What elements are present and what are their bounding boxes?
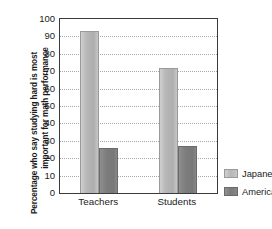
legend-swatch-icon	[224, 169, 238, 178]
y-axis-tick-label: 70	[44, 66, 55, 76]
y-axis-tick-label: 90	[44, 32, 55, 42]
legend-swatch-icon	[224, 187, 238, 196]
bar-japanese-students	[159, 68, 178, 193]
y-axis-title: Percentage who say studying hard is most…	[0, 0, 34, 229]
y-axis-tick-labels: 0102030405060708090100	[30, 0, 57, 229]
bar-japanese-teachers	[80, 31, 99, 193]
y-axis-tick-label: 20	[44, 153, 55, 163]
y-axis-tick-label: 10	[44, 171, 55, 181]
legend-item-japanese: Japanese	[224, 167, 272, 180]
legend-item-americans: Americans	[224, 185, 272, 198]
y-axis-tick-label: 30	[44, 136, 55, 146]
chart-legend: JapaneseAmericans	[224, 167, 272, 203]
plot-area	[59, 18, 218, 194]
x-axis-tick-labels: TeachersStudents	[59, 196, 218, 216]
y-axis-tick-label: 100	[39, 14, 55, 24]
chart-figure: Percentage who say studying hard is most…	[0, 0, 272, 229]
legend-label: Japanese	[242, 169, 272, 179]
x-axis-tick-label-teachers: Teachers	[78, 196, 118, 207]
y-axis-tick-label: 0	[50, 188, 55, 198]
y-axis-tick-label: 40	[44, 119, 55, 129]
y-axis-tick-label: 50	[44, 101, 55, 111]
x-axis-tick-label-students: Students	[157, 196, 196, 207]
y-axis-tick-label: 60	[44, 84, 55, 94]
legend-label: Americans	[242, 187, 272, 197]
y-axis-tick-label: 80	[44, 49, 55, 59]
bar-americans-students	[178, 146, 197, 193]
bar-americans-teachers	[99, 148, 118, 193]
